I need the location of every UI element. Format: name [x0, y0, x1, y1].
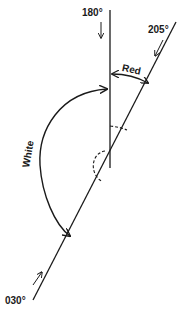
bearing-label-180: 180°	[82, 7, 103, 18]
sector-label-white: White	[20, 139, 36, 168]
sector-light-diagram: 180° 205° 030° Red White	[0, 0, 184, 313]
arrow-030-icon	[33, 272, 42, 285]
bearing-line-205-030	[33, 22, 176, 300]
dashed-angle-arc-lower	[93, 151, 105, 181]
dashed-angle-arc-upper	[110, 126, 127, 130]
bearing-label-030: 030°	[5, 295, 26, 306]
red-sector-arc	[112, 74, 148, 83]
arrow-205-icon	[155, 40, 163, 56]
white-sector-arc	[40, 89, 107, 236]
bearing-label-205: 205°	[148, 24, 169, 35]
